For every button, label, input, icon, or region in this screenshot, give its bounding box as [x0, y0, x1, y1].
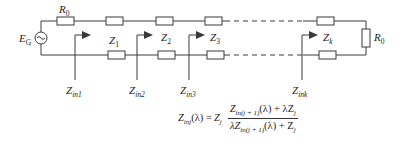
- resistor: [156, 17, 173, 25]
- zin3-label: Zin3: [180, 84, 196, 99]
- formula-denominator: λZin(j + 1)(λ) + Zj: [228, 119, 298, 134]
- zin2-label: Zin2: [129, 84, 145, 99]
- z1-label: Z1: [109, 34, 119, 49]
- formula-lhs: Zinj(λ) =: [178, 112, 212, 126]
- source-label: EG: [18, 32, 32, 47]
- source-resistor: [57, 17, 74, 25]
- formula-numerator: Zin(j + 1)(λ) + λZj: [228, 103, 298, 119]
- resistor: [205, 17, 222, 25]
- load-resistor-label: R0: [373, 31, 385, 46]
- formula-fraction: Zin(j + 1)(λ) + λZj λZin(j + 1)(λ) + Zj: [228, 103, 298, 134]
- bottom-rail: [41, 51, 366, 59]
- arrow-right-icon: [82, 31, 91, 39]
- source-resistor-label: R0: [58, 3, 70, 18]
- resistor: [158, 51, 175, 59]
- top-rail: [41, 17, 366, 25]
- resistor: [317, 17, 334, 25]
- z3-label: Z3: [210, 31, 220, 46]
- arrow-right-icon: [309, 31, 318, 39]
- resistor: [106, 17, 123, 25]
- zin1-label: Zin1: [66, 84, 82, 99]
- arrow-right-icon: [144, 31, 153, 39]
- input-impedance-formula: Zinj(λ) = Zj Zin(j + 1)(λ) + λZj λZin(j …: [178, 103, 298, 134]
- arrow-right-icon: [196, 31, 205, 39]
- formula-factor: Zj: [214, 112, 222, 126]
- ac-source-icon: [35, 21, 47, 55]
- load-resistor: [362, 21, 370, 55]
- resistor: [207, 51, 224, 59]
- zink-label: Zink: [292, 84, 308, 99]
- resistor: [319, 51, 336, 59]
- resistor: [108, 51, 125, 59]
- zk-label: Zk: [323, 31, 333, 46]
- z2-label: Z2: [161, 31, 171, 46]
